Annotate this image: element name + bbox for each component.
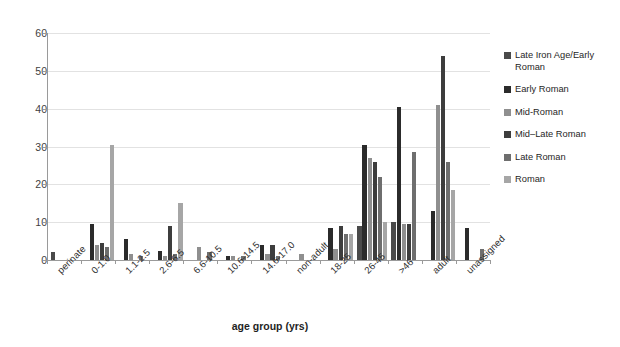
bar-group xyxy=(183,33,217,260)
legend-item-label: Roman xyxy=(515,174,545,186)
legend-item[interactable]: Roman xyxy=(504,174,618,186)
bar xyxy=(412,152,416,260)
bar-group xyxy=(149,33,183,260)
y-axis-tick-label: 20 xyxy=(7,178,47,190)
bar xyxy=(407,224,411,260)
y-axis-tick-label: 50 xyxy=(7,65,47,77)
x-axis-tick-mark xyxy=(115,260,116,264)
chart-legend: Late Iron Age/Early RomanEarly RomanMid-… xyxy=(504,50,618,197)
x-axis-tick-mark xyxy=(251,260,252,264)
bar-group xyxy=(47,33,81,260)
bar xyxy=(441,56,445,260)
x-axis-tick-mark xyxy=(354,260,355,264)
bar xyxy=(465,228,469,260)
x-axis-tick-mark xyxy=(286,260,287,264)
bar xyxy=(226,256,230,260)
bar-groups xyxy=(47,33,490,260)
bar-group xyxy=(422,33,456,260)
bar xyxy=(328,228,332,260)
bar-group xyxy=(251,33,285,260)
bar xyxy=(90,224,94,260)
legend-item[interactable]: Mid-Roman xyxy=(504,107,618,119)
legend-item-label: Late Roman xyxy=(515,152,566,164)
x-axis-tick-mark xyxy=(47,260,48,264)
legend-swatch-icon xyxy=(504,131,511,138)
bar-group xyxy=(354,33,388,260)
bar xyxy=(110,145,114,260)
x-axis-tick-mark xyxy=(388,260,389,264)
legend-item-label: Mid-Roman xyxy=(515,107,563,119)
x-axis-tick-mark xyxy=(320,260,321,264)
bar xyxy=(51,252,55,260)
bar-group xyxy=(286,33,320,260)
bar-group xyxy=(81,33,115,260)
bar xyxy=(402,224,406,260)
legend-swatch-icon xyxy=(504,176,511,183)
bar xyxy=(446,162,450,260)
y-axis-tick-label: 40 xyxy=(7,103,47,115)
bar-group xyxy=(320,33,354,260)
legend-swatch-icon xyxy=(504,52,511,59)
x-axis-tick-mark xyxy=(490,260,491,264)
legend-swatch-icon xyxy=(504,154,511,161)
bar-group xyxy=(217,33,251,260)
y-axis-tick-label: 10 xyxy=(7,216,47,228)
bar-group xyxy=(456,33,490,260)
legend-swatch-icon xyxy=(504,109,511,116)
x-axis-tick-mark xyxy=(81,260,82,264)
bar xyxy=(362,145,366,260)
bar xyxy=(124,239,128,260)
x-axis-labels: perinate0-1.01.1-2.52.6-6.56.6-10.510.6-… xyxy=(0,264,500,319)
x-axis-tick-mark xyxy=(149,260,150,264)
x-axis-tick-mark xyxy=(456,260,457,264)
y-axis-tick-label: 60 xyxy=(7,27,47,39)
x-axis-tick-mark xyxy=(422,260,423,264)
bar xyxy=(436,105,440,260)
legend-item[interactable]: Mid–Late Roman xyxy=(504,129,618,141)
bar xyxy=(431,211,435,260)
bar xyxy=(373,162,377,260)
y-axis-ticks: 0102030405060 xyxy=(0,33,47,261)
bar xyxy=(397,107,401,260)
y-axis-tick-label: 30 xyxy=(7,141,47,153)
bar xyxy=(391,222,395,260)
bar-chart-figure: 0102030405060 perinate0-1.01.1-2.52.6-6.… xyxy=(0,0,620,347)
bar-group xyxy=(388,33,422,260)
legend-item-label: Late Iron Age/Early Roman xyxy=(515,50,618,73)
legend-item[interactable]: Early Roman xyxy=(504,84,618,96)
x-axis-tick-mark xyxy=(217,260,218,264)
legend-item-label: Early Roman xyxy=(515,84,569,96)
legend-item[interactable]: Late Roman xyxy=(504,152,618,164)
bar xyxy=(451,190,455,260)
x-axis-title: age group (yrs) xyxy=(110,320,430,332)
legend-swatch-icon xyxy=(504,86,511,93)
bar-group xyxy=(115,33,149,260)
x-axis-tick-mark xyxy=(183,260,184,264)
bar xyxy=(158,251,162,260)
bar xyxy=(378,177,382,260)
bar xyxy=(357,226,361,260)
legend-item-label: Mid–Late Roman xyxy=(515,129,586,141)
legend-item[interactable]: Late Iron Age/Early Roman xyxy=(504,50,618,73)
bar xyxy=(368,158,372,260)
